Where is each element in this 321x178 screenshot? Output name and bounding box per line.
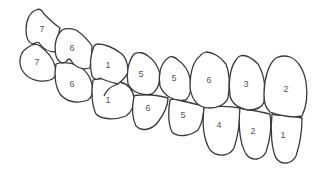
lower-tooth-4[interactable]: 4 bbox=[203, 106, 240, 155]
lower-tooth-5-label: 5 bbox=[180, 110, 185, 120]
dental-diagram: 7 6 1 6 5 4 2 1 7 6 1 bbox=[0, 0, 321, 178]
upper-tooth-1-label: 1 bbox=[105, 60, 110, 70]
upper-tooth-7-label: 7 bbox=[39, 24, 44, 34]
upper-tooth-3[interactable]: 3 bbox=[229, 55, 265, 110]
lower-tooth-4-label: 4 bbox=[216, 120, 221, 130]
upper-tooth-6-label: 6 bbox=[69, 43, 74, 53]
upper-tooth-3-label: 3 bbox=[243, 79, 248, 89]
lower-tooth-6b-label: 6 bbox=[145, 103, 150, 113]
lower-tooth-1b-label: 1 bbox=[280, 130, 285, 140]
lower-tooth-1b[interactable]: 1 bbox=[271, 114, 302, 163]
lower-tooth-2-label: 2 bbox=[250, 126, 255, 136]
upper-tooth-5[interactable]: 5 bbox=[127, 53, 160, 95]
upper-tooth-5b[interactable]: 5 bbox=[159, 57, 191, 101]
upper-tooth-6b-label: 6 bbox=[206, 75, 211, 85]
upper-tooth-5b-label: 5 bbox=[171, 73, 176, 83]
upper-tooth-5-label: 5 bbox=[138, 69, 143, 79]
upper-tooth-1[interactable]: 1 bbox=[91, 44, 128, 84]
upper-tooth-2-label: 2 bbox=[283, 84, 288, 94]
lower-tooth-6b[interactable]: 6 bbox=[133, 95, 168, 130]
upper-tooth-6[interactable]: 6 bbox=[55, 29, 92, 69]
lower-tooth-6-label: 6 bbox=[69, 79, 74, 89]
upper-tooth-2[interactable]: 2 bbox=[264, 56, 307, 117]
lower-tooth-2[interactable]: 2 bbox=[239, 108, 271, 159]
lower-tooth-7-label: 7 bbox=[34, 57, 39, 67]
upper-tooth-6b[interactable]: 6 bbox=[190, 52, 229, 108]
lower-tooth-1-label: 1 bbox=[105, 95, 110, 105]
